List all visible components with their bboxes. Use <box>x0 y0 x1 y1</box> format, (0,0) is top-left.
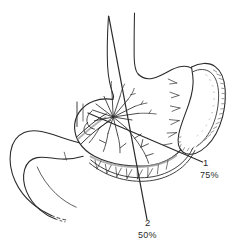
stomach-outline <box>75 66 200 166</box>
resection-label-1-percent: 75% <box>200 170 219 180</box>
duodenum <box>10 131 83 222</box>
resection-label-2-percent: 50% <box>138 230 157 240</box>
gastrectomy-diagram: 1 75% 2 50% <box>0 0 237 252</box>
resection-label-2-number: 2 <box>145 218 150 228</box>
resection-label-1-number: 1 <box>203 158 208 168</box>
anatomy-illustration <box>0 0 237 252</box>
